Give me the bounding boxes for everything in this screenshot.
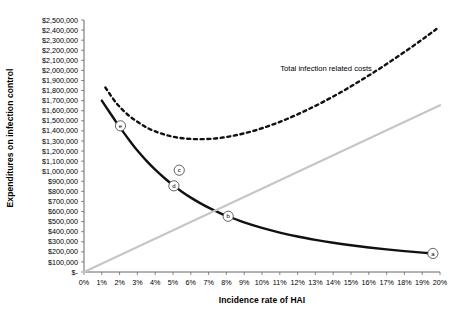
x-tick-label: 3% (132, 278, 143, 287)
series-line (84, 105, 440, 272)
point-marker-c: c (174, 165, 184, 175)
y-tick-label: $2,100,000 (42, 56, 78, 65)
y-tick-label: $300,000 (48, 237, 78, 246)
y-tick-label: $1,700,000 (42, 96, 78, 105)
x-tick-label: 7% (203, 278, 214, 287)
x-tick-label: 9% (239, 278, 250, 287)
y-axis-ticks: $2,500,000$2,400,000$2,300,000$2,200,000… (42, 16, 84, 277)
annotations-group: Total infection related costs (280, 64, 372, 73)
expenditures-vs-incidence-chart: $2,500,000$2,400,000$2,300,000$2,200,000… (0, 0, 469, 310)
y-tick-label: $1,200,000 (42, 147, 78, 156)
x-tick-label: 19% (415, 278, 430, 287)
y-tick-label: $1,000,000 (42, 167, 78, 176)
x-tick-label: 15% (344, 278, 359, 287)
point-marker-a: a (428, 248, 438, 258)
y-tick-label: $1,400,000 (42, 126, 78, 135)
point-marker-d: d (169, 181, 179, 191)
x-tick-label: 6% (186, 278, 197, 287)
point-marker-e: e (115, 121, 125, 131)
y-tick-label: $900,000 (48, 177, 78, 186)
x-axis-ticks: 0%1%2%3%4%5%6%7%8%9%10%11%12%13%14%15%16… (79, 272, 448, 287)
x-tick-label: 11% (273, 278, 287, 287)
x-tick-label: 2% (114, 278, 125, 287)
y-tick-label: $1,300,000 (42, 137, 78, 146)
chart-container: $2,500,000$2,400,000$2,300,000$2,200,000… (0, 0, 469, 310)
x-tick-label: 0% (79, 278, 90, 287)
y-tick-label: $200,000 (48, 247, 78, 256)
y-tick-label: $2,200,000 (42, 46, 78, 55)
chart-annotation: Total infection related costs (280, 64, 372, 73)
y-tick-label: $800,000 (48, 187, 78, 196)
y-tick-label: $1,800,000 (42, 86, 78, 95)
data-series-group (84, 29, 440, 272)
series-line (102, 101, 433, 254)
x-tick-label: 17% (379, 278, 394, 287)
y-tick-label: $2,400,000 (42, 26, 78, 35)
y-tick-label: $1,600,000 (42, 106, 78, 115)
y-tick-label: $2,500,000 (42, 16, 78, 25)
point-marker-label: c (178, 167, 181, 173)
y-tick-label: $400,000 (48, 227, 78, 236)
y-tick-label: $100,000 (48, 258, 78, 267)
x-tick-label: 1% (97, 278, 108, 287)
axis-lines (84, 20, 440, 272)
x-tick-label: 5% (168, 278, 179, 287)
y-tick-label: $500,000 (48, 217, 78, 226)
point-markers-group: abcde (115, 121, 438, 259)
x-tick-label: 13% (308, 278, 323, 287)
x-tick-label: 18% (397, 278, 412, 287)
y-tick-label: $2,000,000 (42, 66, 78, 75)
x-tick-label: 14% (326, 278, 341, 287)
x-tick-label: 20% (433, 278, 448, 287)
y-tick-label: $600,000 (48, 207, 78, 216)
y-tick-label: $1,900,000 (42, 76, 78, 85)
x-tick-label: 16% (362, 278, 377, 287)
y-tick-label: $1,100,000 (42, 157, 78, 166)
point-marker-b: b (223, 211, 233, 221)
series-line (105, 29, 436, 139)
x-tick-label: 12% (290, 278, 305, 287)
y-tick-label: $700,000 (48, 197, 78, 206)
x-tick-label: 8% (221, 278, 232, 287)
point-marker-label: d (172, 183, 175, 189)
y-tick-label: $1,500,000 (42, 116, 78, 125)
y-tick-label: $- (72, 268, 79, 277)
x-tick-label: 4% (150, 278, 161, 287)
x-tick-label: 10% (255, 278, 270, 287)
y-tick-label: $2,300,000 (42, 36, 78, 45)
